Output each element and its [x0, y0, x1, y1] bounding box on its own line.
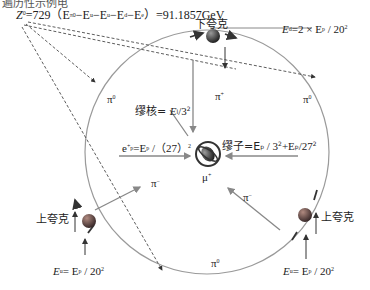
ed-formula: Ed=2 × Ep / 202 [282, 23, 347, 35]
down-quark-label: 下夸克 [195, 19, 228, 31]
up-quark-left-label: 上夸克 [36, 214, 69, 226]
positron-formula: e+p=Ep /（27）2 [122, 142, 191, 154]
pi0-left-label: π0 [107, 93, 116, 105]
muon-center [196, 142, 220, 166]
mu-plus-label: μ+ [202, 171, 211, 183]
up-quark-right-label: 上夸克 [321, 212, 354, 224]
eu-right-formula: Eu= Ep / 202 [283, 265, 334, 277]
up-quark-right-sphere [298, 208, 312, 222]
pi-minus-right-label: π− [243, 191, 252, 203]
pi-plus-label: π+ [215, 90, 224, 102]
pi0-right-label: π0 [303, 93, 312, 105]
muon-formula: 缪子=Ep / 32+Ep/272 [222, 140, 317, 153]
pi0-bottom-label: π0 [211, 257, 220, 269]
eu-left-formula: Eu= Ep / 202 [53, 265, 104, 277]
z0-formula: Z0=729（Eπ0−Eu−Eu−Ed−Ee）=91.1857GeV [16, 9, 224, 21]
up-quark-left-sphere [82, 214, 96, 228]
muon-core-formula: 缪核= El/32 [135, 105, 191, 118]
pi-minus-left-label: π− [151, 177, 160, 189]
orbit-arrows [75, 33, 317, 240]
down-quark-sphere [206, 29, 220, 43]
